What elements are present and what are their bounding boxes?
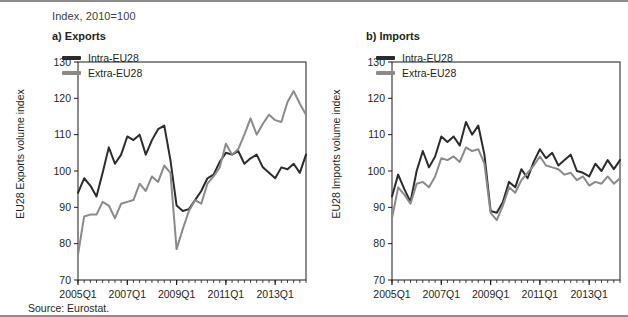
- legend-label-intra: Intra-EU28: [88, 52, 139, 64]
- legend-item-intra: Intra-EU28: [62, 52, 142, 64]
- legend-swatch-intra: [62, 56, 81, 60]
- y-tick-label: 80: [59, 237, 71, 249]
- y-tick-label: 120: [367, 92, 385, 104]
- plot-frame: [392, 62, 620, 280]
- series-line-intra-eu28: [78, 126, 306, 211]
- series-line-extra-eu28: [78, 91, 306, 255]
- plot-frame: [78, 62, 306, 280]
- y-tick-label: 100: [367, 165, 385, 177]
- y-tick-label: 80: [373, 237, 385, 249]
- legend-item-intra: Intra-EU28: [376, 52, 456, 64]
- x-tick-label: 2005Q1: [59, 288, 97, 300]
- legend-item-extra: Extra-EU28: [62, 67, 142, 79]
- legend-label-intra: Intra-EU28: [402, 52, 453, 64]
- panel-imports-svg: 7080901001101201302005Q12007Q12009Q12011…: [362, 44, 624, 306]
- panel-exports: a) Exports EU28 Exports volume index 708…: [0, 26, 314, 316]
- x-tick-label: 2007Q1: [423, 288, 461, 300]
- y-tick-label: 70: [59, 274, 71, 286]
- x-tick-label: 2009Q1: [472, 288, 510, 300]
- panel-imports: b) Imports EU28 Imports volume index 708…: [314, 26, 628, 316]
- panel-exports-title: a) Exports: [52, 30, 106, 42]
- x-tick-label: 2009Q1: [158, 288, 196, 300]
- legend-swatch-extra: [62, 71, 81, 75]
- y-tick-label: 120: [53, 92, 71, 104]
- index-note: Index, 2010=100: [52, 10, 136, 22]
- legend-item-extra: Extra-EU28: [376, 67, 456, 79]
- panel-exports-svg: 7080901001101201302005Q12007Q12009Q12011…: [48, 44, 310, 306]
- legend-label-extra: Extra-EU28: [402, 67, 456, 79]
- panel-imports-legend: Intra-EU28 Extra-EU28: [376, 52, 456, 82]
- panel-imports-plot-area: 7080901001101201302005Q12007Q12009Q12011…: [362, 44, 624, 306]
- panel-exports-plot-area: 7080901001101201302005Q12007Q12009Q12011…: [48, 44, 310, 306]
- legend-label-extra: Extra-EU28: [88, 67, 142, 79]
- x-tick-label: 2013Q1: [257, 288, 295, 300]
- y-tick-label: 70: [373, 274, 385, 286]
- y-tick-label: 90: [373, 201, 385, 213]
- source-note: Source: Eurostat.: [28, 302, 109, 314]
- y-tick-label: 100: [53, 165, 71, 177]
- figure-container: Index, 2010=100 a) Exports EU28 Exports …: [0, 2, 628, 317]
- x-tick-label: 2011Q1: [208, 288, 245, 300]
- y-tick-label: 90: [59, 201, 71, 213]
- panel-exports-legend: Intra-EU28 Extra-EU28: [62, 52, 142, 82]
- legend-swatch-intra: [376, 56, 395, 60]
- y-tick-label: 110: [368, 128, 385, 140]
- panel-exports-y-axis-label: EU28 Exports volume index: [14, 64, 26, 244]
- panel-imports-y-axis-label: EU28 Imports volume index: [330, 64, 342, 244]
- panel-imports-title: b) Imports: [366, 30, 420, 42]
- legend-swatch-extra: [376, 71, 395, 75]
- y-tick-label: 110: [54, 128, 71, 140]
- x-tick-label: 2011Q1: [522, 288, 559, 300]
- x-tick-label: 2013Q1: [571, 288, 609, 300]
- x-tick-label: 2005Q1: [373, 288, 411, 300]
- x-tick-label: 2007Q1: [109, 288, 147, 300]
